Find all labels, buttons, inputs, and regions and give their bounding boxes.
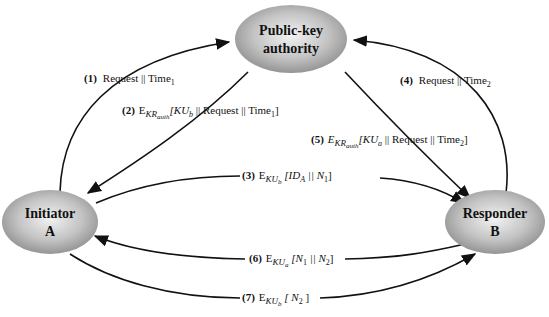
node-responder-b: Responder B [445,190,545,254]
message-4-label: (4)Request || Time2 [400,74,491,89]
edge-2 [88,72,248,193]
initiator-label-line2: A [45,224,56,239]
message-1-label: (1)Request || Time1 [84,72,175,87]
public-key-authority-diagram: Public-key authority Initiator A Respond… [0,0,549,317]
edge-6 [95,236,465,259]
message-5-label: (5)EKRauth[KUa || Request || Time2] [311,133,468,150]
node-public-key-authority: Public-key authority [235,5,347,73]
edge-1 [60,42,229,192]
edge-4 [354,40,507,193]
message-6-label: (6)EKUa [N1 || N2] [249,252,334,269]
node-initiator-a: Initiator A [2,190,98,254]
message-2-label: (2)EKRauth[KUb || Request || Time1] [122,104,279,121]
responder-label-line2: B [490,224,499,239]
message-7-label: (7)EKUb [ N2 ] [242,291,309,308]
message-3-label: (3)EKUb [IDA || N1] [242,169,332,186]
responder-label-line1: Responder [463,206,528,221]
authority-label-line2: authority [263,41,319,56]
initiator-label-line1: Initiator [25,206,76,221]
authority-label-line1: Public-key [259,23,323,38]
